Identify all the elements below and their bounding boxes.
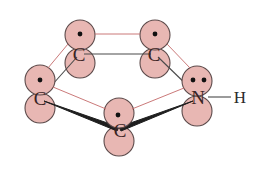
atom-label-n-right: N <box>191 87 205 108</box>
atom-label-c-bottom: C <box>114 120 127 141</box>
atom-label-c-top-right: C <box>148 44 161 65</box>
electron-icon <box>38 78 43 83</box>
pi-overlap-cl-cb <box>53 87 106 109</box>
atom-label-c-top-left: C <box>73 44 86 65</box>
lone-pair-electron-icon <box>191 78 196 83</box>
atom-label-c-left: C <box>34 88 47 109</box>
electron-icon <box>116 113 121 118</box>
pyrrole-orbital-diagram: C C C C N H <box>0 0 265 175</box>
lone-pair-electron-icon <box>202 78 207 83</box>
pi-overlap-n-cb <box>132 88 184 109</box>
atom-label-h: H <box>234 88 246 107</box>
electron-icon <box>153 32 158 37</box>
electron-icon <box>78 32 83 37</box>
